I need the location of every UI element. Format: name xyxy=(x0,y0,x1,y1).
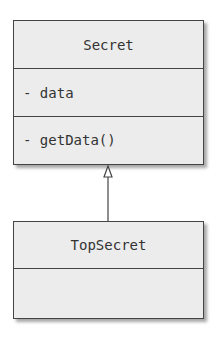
hollow-triangle-icon xyxy=(104,166,112,177)
empty-compartment xyxy=(14,269,203,318)
class-topsecret: TopSecret xyxy=(13,221,204,319)
class-name: TopSecret xyxy=(14,222,203,269)
